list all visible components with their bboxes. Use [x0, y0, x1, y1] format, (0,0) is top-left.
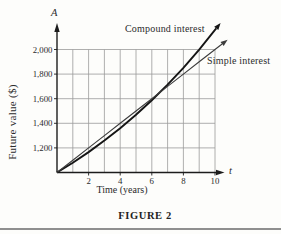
svg-text:1,800: 1,800: [33, 69, 53, 79]
svg-text:1,200: 1,200: [33, 143, 53, 153]
y-axis-symbol: A: [51, 7, 57, 19]
svg-text:1,400: 1,400: [33, 118, 53, 128]
series-lines: [57, 23, 228, 173]
svg-text:8: 8: [181, 176, 186, 186]
simple-interest-line: [57, 44, 222, 173]
x-axis-title: Time (years): [72, 184, 172, 195]
tick-labels: 1,2001,4001,6001,8002,000246810: [33, 45, 220, 187]
compound-interest-series-label: Compound interest: [125, 23, 205, 35]
simple-line-arrowhead-icon: [221, 40, 228, 46]
figure-caption: FIGURE 2: [95, 210, 195, 221]
svg-text:2,000: 2,000: [33, 45, 53, 55]
svg-text:10: 10: [211, 176, 220, 186]
page-divider-rule: [0, 228, 281, 230]
figure-2-panel: 1,2001,4001,6001,8002,000246810 A t Comp…: [0, 0, 281, 234]
interest-chart-canvas: 1,2001,4001,6001,8002,000246810: [0, 0, 281, 234]
x-axis-symbol: t: [229, 165, 232, 177]
y-axis-title: Future value ($): [6, 67, 20, 177]
compound-interest-line: [57, 28, 216, 172]
simple-interest-series-label: Simple interest: [207, 55, 270, 67]
svg-text:1,600: 1,600: [33, 94, 53, 104]
